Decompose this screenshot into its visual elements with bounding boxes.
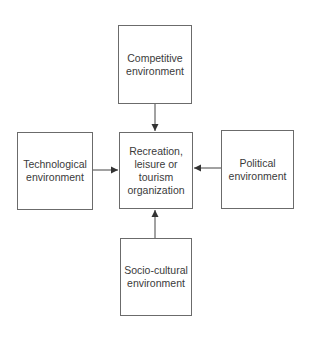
socio-cultural-environment-box: Socio-cultural environment bbox=[120, 238, 192, 316]
competitive-environment-box: Competitive environment bbox=[118, 25, 192, 104]
technological-environment-label: Technological environment bbox=[23, 158, 87, 184]
environment-influence-diagram: Competitive environment Technological en… bbox=[0, 0, 310, 337]
political-environment-box: Political environment bbox=[221, 130, 294, 209]
socio-cultural-environment-label: Socio-cultural environment bbox=[124, 264, 188, 290]
organization-label: Recreation, leisure or tourism organizat… bbox=[127, 145, 184, 197]
organization-box: Recreation, leisure or tourism organizat… bbox=[119, 132, 193, 209]
technological-environment-box: Technological environment bbox=[17, 132, 93, 210]
competitive-environment-label: Competitive environment bbox=[126, 52, 184, 78]
political-environment-label: Political environment bbox=[229, 157, 287, 183]
